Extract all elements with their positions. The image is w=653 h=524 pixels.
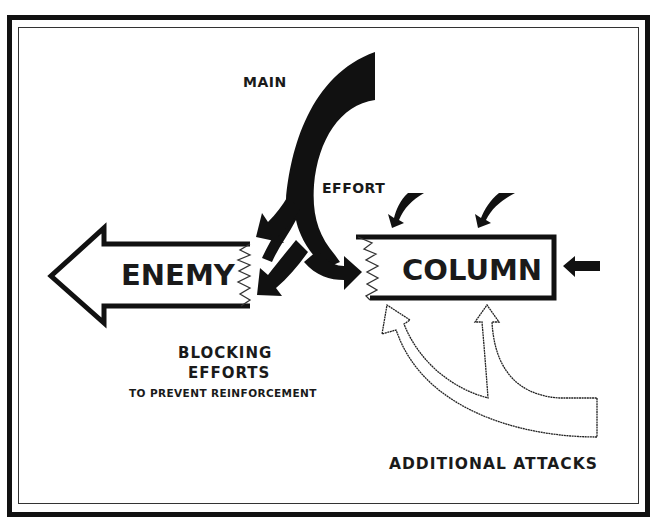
small-arrow-right bbox=[563, 256, 600, 277]
main-label: MAIN bbox=[243, 75, 287, 89]
prevent-reinforcement-label: TO PREVENT REINFORCEMENT bbox=[129, 388, 317, 399]
efforts-label: EFFORTS bbox=[188, 366, 270, 381]
blocking-label: BLOCKING bbox=[178, 346, 272, 361]
tactics-diagram bbox=[0, 0, 653, 524]
additional-attacks-label: ADDITIONAL ATTACKS bbox=[389, 457, 598, 473]
small-arrow-2 bbox=[475, 193, 515, 228]
effort-label: EFFORT bbox=[322, 181, 385, 195]
enemy-label: ENEMY bbox=[121, 261, 235, 290]
column-label: COLUMN bbox=[402, 256, 542, 285]
small-arrow-1 bbox=[388, 193, 424, 228]
additional-attacks-arrow bbox=[382, 305, 597, 437]
